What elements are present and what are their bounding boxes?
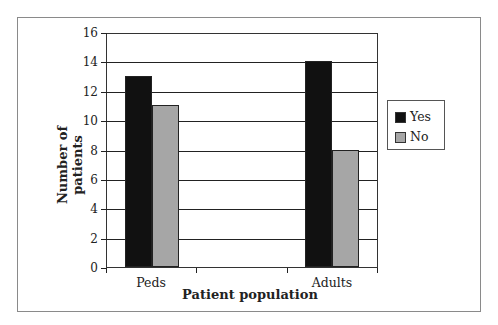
x-axis-tick bbox=[287, 268, 288, 273]
y-tick-label: 2 bbox=[70, 233, 98, 245]
x-axis-tick bbox=[196, 268, 197, 273]
legend-swatch-no bbox=[395, 132, 406, 143]
y-tick-label: 12 bbox=[70, 86, 98, 98]
x-axis-tick bbox=[106, 268, 107, 273]
legend-item-no: No bbox=[395, 130, 428, 143]
x-axis-tick bbox=[377, 268, 378, 273]
y-axis-tick bbox=[101, 33, 107, 34]
gridline bbox=[107, 62, 377, 63]
y-tick-label: 14 bbox=[70, 56, 98, 68]
x-axis-title: Patient population bbox=[150, 287, 350, 302]
y-tick-label: 16 bbox=[70, 27, 98, 39]
legend-label-yes: Yes bbox=[410, 109, 431, 124]
y-axis-tick bbox=[101, 151, 107, 152]
bar-peds-yes bbox=[125, 76, 152, 267]
y-axis-tick bbox=[101, 209, 107, 210]
bar-adults-yes bbox=[305, 61, 332, 267]
y-axis-tick bbox=[101, 62, 107, 63]
legend: Yes No bbox=[387, 100, 445, 150]
y-axis-tick bbox=[101, 121, 107, 122]
bar-adults-no bbox=[332, 150, 359, 268]
y-axis-title: Number of patients bbox=[55, 105, 85, 225]
y-axis-tick bbox=[101, 92, 107, 93]
legend-item-yes: Yes bbox=[395, 110, 431, 123]
y-tick-label: 0 bbox=[70, 262, 98, 274]
plot-area bbox=[106, 33, 378, 268]
legend-label-no: No bbox=[410, 129, 428, 144]
legend-swatch-yes bbox=[395, 112, 406, 123]
y-axis-tick bbox=[101, 239, 107, 240]
bar-peds-no bbox=[152, 105, 179, 267]
y-axis-tick bbox=[101, 180, 107, 181]
